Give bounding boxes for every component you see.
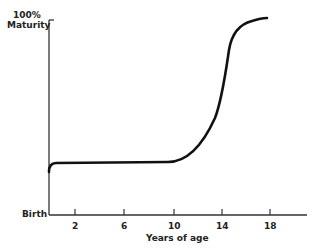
x-tick-14: 14 — [216, 221, 229, 231]
maturity-chart — [0, 0, 316, 252]
y-label-birth: Birth — [22, 209, 47, 219]
y-label-maturity: Maturity — [7, 20, 50, 30]
x-tick-2: 2 — [72, 221, 78, 231]
x-tick-18: 18 — [264, 221, 277, 231]
x-tick-10: 10 — [168, 221, 181, 231]
x-axis-label: Years of age — [146, 233, 209, 243]
maturity-curve — [49, 18, 267, 172]
x-ticks — [75, 209, 270, 215]
y-label-100: 100% — [13, 10, 41, 20]
x-tick-6: 6 — [121, 221, 127, 231]
